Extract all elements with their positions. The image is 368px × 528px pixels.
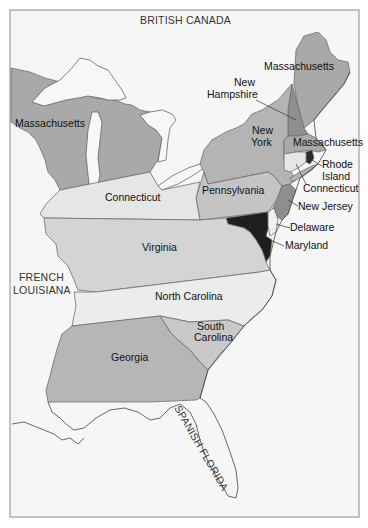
label-pennsylvania: Pennsylvania [202, 184, 265, 196]
label-french-louisiana-1: FRENCH [19, 271, 64, 283]
colonial-map: BRITISH CANADA FRENCH LOUISIANA SPANISH … [0, 0, 368, 528]
label-massachusetts-maine: Massachusetts [264, 60, 334, 72]
label-virginia: Virginia [142, 241, 177, 253]
label-massachusetts-main: Massachusetts [293, 136, 363, 148]
label-new-york-2: York [251, 136, 272, 148]
label-massachusetts-west: Massachusetts [15, 117, 85, 129]
label-new-jersey: New Jersey [298, 200, 354, 212]
label-french-louisiana-2: LOUISIANA [13, 284, 71, 296]
label-new-hampshire-2: Hampshire [207, 88, 258, 100]
label-north-carolina: North Carolina [155, 290, 223, 302]
label-delaware: Delaware [290, 221, 335, 233]
label-rhode-island-2: Island [322, 170, 350, 182]
label-new-york-1: New [252, 124, 273, 136]
label-georgia: Georgia [111, 351, 149, 363]
label-rhode-island-1: Rhode [322, 158, 353, 170]
label-maryland: Maryland [285, 239, 328, 251]
label-new-hampshire-1: New [234, 76, 255, 88]
label-south-carolina-2: Carolina [194, 331, 233, 343]
label-connecticut-west: Connecticut [105, 191, 161, 203]
label-connecticut-east: Connecticut [303, 182, 359, 194]
label-british-canada: BRITISH CANADA [140, 14, 231, 26]
